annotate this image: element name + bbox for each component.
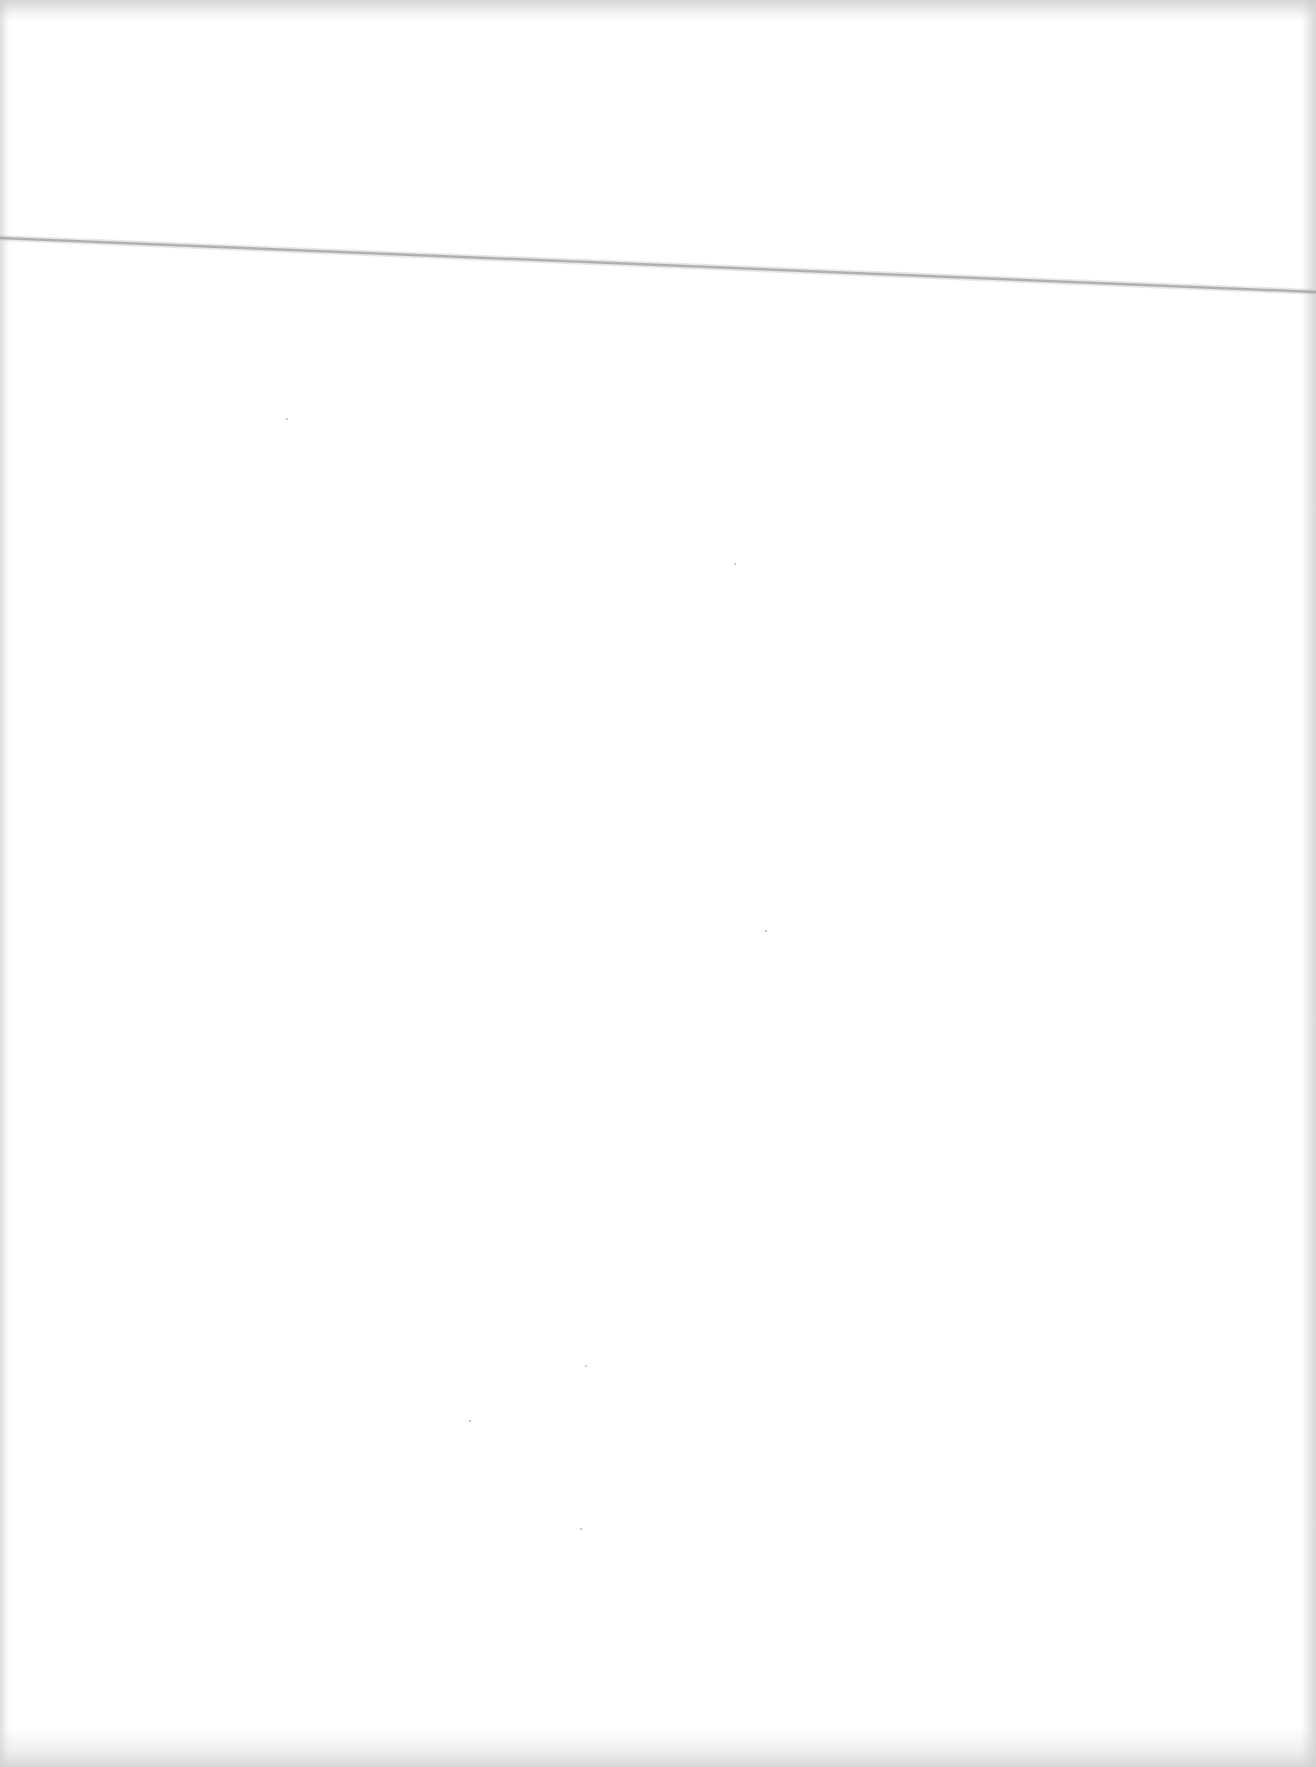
- scan-shadow-left: [0, 0, 8, 1767]
- dust-speck: [580, 1528, 582, 1530]
- scan-shadow-top: [0, 0, 1316, 22]
- dust-speck: [765, 930, 767, 932]
- scan-shadow-bottom: [0, 1727, 1316, 1767]
- dust-speck: [734, 563, 736, 565]
- fold-crease-line: [0, 0, 1316, 340]
- dust-speck: [585, 1365, 587, 1367]
- dust-speck: [286, 418, 288, 420]
- scan-shadow-right: [1302, 0, 1316, 1767]
- dust-speck: [469, 1420, 471, 1422]
- blank-scanned-page: [0, 0, 1316, 1767]
